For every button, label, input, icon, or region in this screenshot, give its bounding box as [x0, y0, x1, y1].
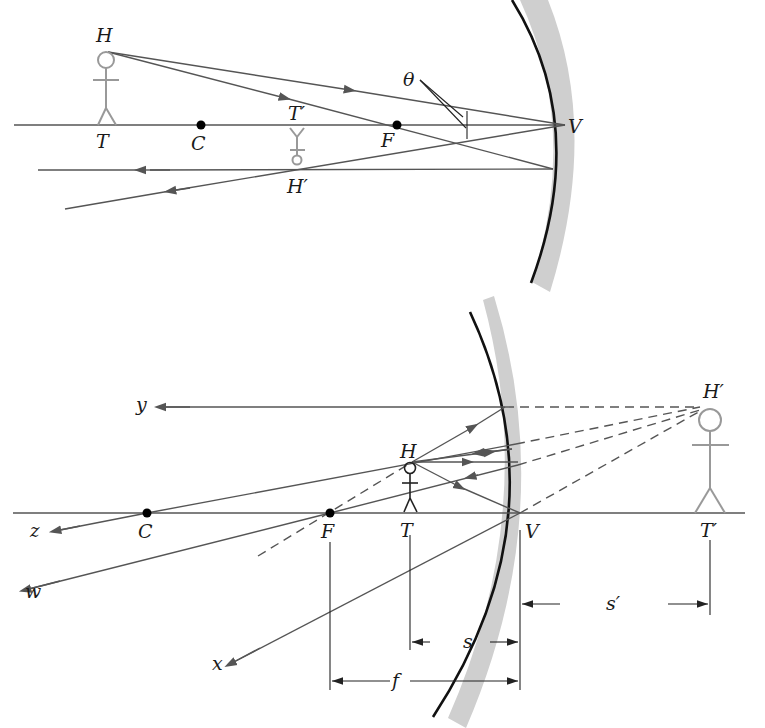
bottom-label-T-prime: T′	[700, 519, 718, 541]
bottom-diagram: H T C F V T′ H′ y z w x s s′ f	[13, 296, 745, 728]
top-label-F: F	[380, 129, 395, 151]
label-theta: θ	[403, 68, 415, 90]
bottom-label-F: F	[320, 520, 335, 542]
bottom-object-figure	[402, 463, 418, 513]
dimension-label-s: s	[463, 630, 473, 652]
ray-label-w: w	[25, 580, 41, 602]
bottom-focus-point	[326, 509, 335, 518]
top-label-T-prime: T′	[288, 102, 306, 124]
top-label-H: H	[95, 24, 113, 46]
bottom-label-T: T	[400, 519, 414, 541]
bottom-center-point	[143, 509, 152, 518]
top-label-V: V	[568, 115, 584, 137]
top-label-T: T	[96, 130, 110, 152]
optics-diagram: θ H T C F V T′ H′	[0, 0, 765, 728]
top-image-figure	[290, 128, 305, 165]
ray-label-x: x	[212, 652, 223, 674]
ray-label-z: z	[29, 520, 40, 541]
bottom-label-H: H	[399, 440, 417, 462]
top-label-C: C	[191, 132, 206, 154]
bottom-rays	[25, 407, 702, 664]
top-diagram: θ H T C F V T′ H′	[14, 0, 584, 292]
bottom-label-V: V	[525, 520, 541, 542]
dimension-label-s-prime: s′	[606, 592, 621, 614]
bottom-mirror-backing	[448, 296, 521, 728]
top-center-point	[197, 121, 206, 130]
top-label-H-prime: H′	[286, 175, 309, 197]
ray-label-y: y	[135, 393, 147, 415]
bottom-label-C: C	[138, 520, 153, 542]
dimension-label-f: f	[390, 669, 402, 691]
bottom-image-figure	[692, 409, 729, 513]
dimension-lines	[330, 530, 710, 690]
bottom-mirror-surface	[433, 312, 510, 717]
top-mirror-backing	[520, 0, 575, 292]
bottom-label-H-prime: H′	[702, 380, 725, 402]
top-object-figure	[93, 52, 119, 125]
